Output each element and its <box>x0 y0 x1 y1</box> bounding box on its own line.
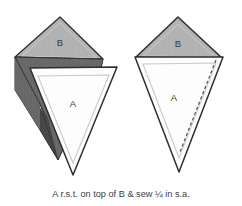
left-label-a: A <box>70 98 77 109</box>
right-figure-group: B A <box>135 17 223 172</box>
right-label-b: B <box>175 38 181 49</box>
right-piece-a <box>135 57 223 172</box>
diagram-canvas: B A B A A r.s.t. on top of B & sew ¼ in … <box>0 0 242 206</box>
right-label-a: A <box>171 92 178 103</box>
diagram-caption: A r.s.t. on top of B & sew ¼ in s.a. <box>52 189 189 199</box>
left-label-b: B <box>57 37 63 48</box>
left-figure-group: B A <box>15 17 117 175</box>
sewing-instruction-diagram: B A B A A r.s.t. on top of B & sew ¼ in … <box>0 0 242 206</box>
